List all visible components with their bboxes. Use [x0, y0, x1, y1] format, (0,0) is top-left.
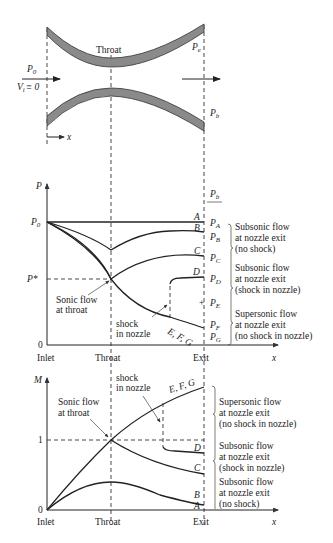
- mach-label-a: A: [193, 501, 200, 511]
- pressure-xtick-throat: Throat: [95, 353, 121, 363]
- label-d: D: [192, 267, 200, 277]
- mach-label-b: B: [194, 490, 200, 500]
- p0-label: P0: [26, 64, 37, 76]
- svg-text:at nozzle exit: at nozzle exit: [219, 408, 270, 418]
- pressure-shock-annotation-1: shock: [116, 319, 138, 329]
- pressure-sonic-annotation-2: at throat: [56, 305, 88, 315]
- label-a: A: [193, 212, 200, 222]
- pb-column-header: Pb: [209, 189, 220, 201]
- pe-exit-label: PE: [209, 298, 221, 310]
- mach-curve-b: [47, 482, 204, 510]
- nozzle-flow-diagram: Throat P0 Vi≡ 0 Pe Pb x P P0 P* 0 Pb: [0, 0, 333, 543]
- svg-text:Supersonic flow: Supersonic flow: [219, 397, 281, 407]
- svg-text:at nozzle exit: at nozzle exit: [219, 488, 270, 498]
- svg-text:(shock in nozzle): (shock in nozzle): [235, 285, 300, 296]
- pb-label: Pb: [209, 108, 220, 120]
- nozzle-lower-wall: [47, 88, 204, 131]
- mach-regime-subsonic-shock: Subsonic flow at nozzle exit (shock in n…: [219, 441, 284, 474]
- throat-label: Throat: [96, 45, 122, 55]
- svg-text:(shock in nozzle): (shock in nozzle): [219, 463, 284, 474]
- svg-text:Subsonic flow: Subsonic flow: [235, 263, 290, 273]
- svg-text:at nozzle exit: at nozzle exit: [235, 320, 286, 330]
- mach-shock-annotation-2: in nozzle: [116, 383, 151, 393]
- svg-text:Subsonic flow: Subsonic flow: [235, 222, 290, 232]
- mach-sonic-annotation-2: at throat: [58, 408, 90, 418]
- mach-sonic-annotation-1: Sonic flow: [58, 397, 100, 407]
- nozzle-upper-wall: [47, 24, 204, 67]
- label-b: B: [194, 223, 200, 233]
- pressure-zero-tick: 0: [38, 340, 43, 350]
- brace-supersonic: [228, 306, 233, 345]
- pressure-sonic-pointer: [88, 281, 109, 295]
- svg-text:Supersonic flow: Supersonic flow: [235, 309, 297, 319]
- svg-text:(no shock): (no shock): [235, 244, 275, 255]
- pressure-xtick-exit: Exit: [193, 353, 209, 363]
- mach-y-axis-label: M: [33, 375, 43, 385]
- pressure-y-axis-label: P: [35, 181, 42, 191]
- p0-tick: P0: [30, 217, 41, 229]
- mach-x-axis-label: x: [271, 517, 277, 527]
- mach-zero-tick: 0: [38, 505, 43, 515]
- pd-label: PD: [209, 274, 221, 286]
- svg-text:Subsonic flow: Subsonic flow: [219, 441, 274, 451]
- mach-brace-subsonic-shock: [213, 442, 215, 476]
- pressure-xtick-inlet: Inlet: [37, 353, 55, 363]
- brace-subsonic-no-shock: [228, 224, 233, 269]
- mach-label-c: C: [194, 463, 201, 473]
- mach-plot: M 1 0 E, F, G D C B A Supersonic flow at…: [33, 373, 296, 527]
- pe-label: Pe: [191, 42, 201, 54]
- pressure-shock-annotation-2: in nozzle: [116, 329, 151, 339]
- x-direction-label: x: [66, 132, 72, 142]
- mach-xtick-throat: Throat: [95, 517, 121, 527]
- inlet-velocity-label: Vi≡ 0: [17, 82, 40, 94]
- pa-label: PA: [209, 218, 221, 230]
- pg-label: PG: [209, 332, 221, 344]
- svg-text:(no shock in nozzle): (no shock in nozzle): [235, 331, 312, 342]
- pressure-sonic-annotation-1: Sonic flow: [56, 295, 98, 305]
- svg-text:at nozzle exit: at nozzle exit: [219, 452, 270, 462]
- mach-regime-supersonic: Supersonic flow at nozzle exit (no shock…: [219, 397, 296, 430]
- svg-text:(no shock in nozzle): (no shock in nozzle): [219, 419, 296, 430]
- mach-shock-pointer: [143, 396, 160, 422]
- mach-sonic-pointer: [90, 419, 108, 437]
- mach-one-tick: 1: [38, 435, 43, 445]
- pressure-regime-supersonic: Supersonic flow at nozzle exit (no shock…: [235, 309, 312, 342]
- mach-xtick-inlet: Inlet: [37, 517, 55, 527]
- brace-subsonic-shock: [231, 269, 233, 306]
- svg-text:Subsonic flow: Subsonic flow: [219, 477, 274, 487]
- pressure-regime-subsonic-no-shock: Subsonic flow at nozzle exit (no shock): [235, 222, 290, 255]
- pressure-curve-d: [170, 277, 204, 284]
- pressure-regime-subsonic-shock: Subsonic flow at nozzle exit (shock in n…: [235, 263, 300, 296]
- mach-brace-supersonic: [212, 386, 215, 442]
- mach-curve-c: [111, 440, 204, 474]
- mach-shock-annotation-1: shock: [116, 373, 138, 383]
- mach-label-d: D: [193, 443, 201, 453]
- pe-exit-tick: +: [199, 298, 204, 308]
- label-c: C: [194, 246, 201, 256]
- mach-regime-subsonic-no-shock: Subsonic flow at nozzle exit (no shock): [219, 477, 274, 510]
- svg-text:(no shock): (no shock): [219, 499, 259, 510]
- pf-label: PF: [209, 320, 221, 332]
- mach-label-efg: E, F, G: [167, 377, 197, 395]
- pressure-x-axis-label: x: [271, 353, 277, 363]
- mach-xtick-exit: Exit: [193, 517, 209, 527]
- pressure-plot: P P0 P* 0 Pb A B C D E, F, G PA PB PC PD…: [26, 181, 312, 363]
- pc-label: PC: [209, 253, 221, 265]
- svg-text:at nozzle exit: at nozzle exit: [235, 233, 286, 243]
- pstar-tick: P*: [26, 274, 38, 284]
- pb-exit-label: PB: [209, 232, 221, 244]
- svg-text:at nozzle exit: at nozzle exit: [235, 274, 286, 284]
